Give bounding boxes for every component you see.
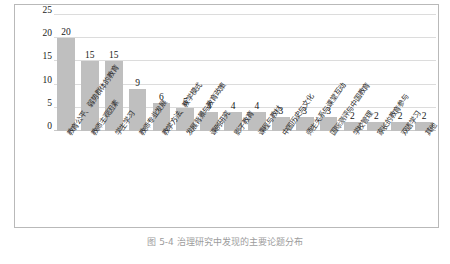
bar-value-label: 15 [78,50,102,60]
figure-container: 2520151050 2015159654443332222 教育公平、弱势群体… [0,0,450,264]
x-axis-category-labels: 教育公平、弱势群体的教育教师主观因素学生学习教师专业发展教学方法、教学模式发展背… [0,131,450,231]
bar-slot: 20 [54,14,78,131]
bar-value-label: 15 [102,50,126,60]
y-axis-tick-labels: 2520151050 [18,10,52,130]
y-axis-tick-5: 5 [47,99,52,109]
bar-value-label: 20 [54,27,78,37]
y-axis-tick-20: 20 [43,29,53,39]
y-axis-tick-25: 25 [43,6,53,16]
y-axis-tick-10: 10 [43,76,53,86]
y-axis-tick-15: 15 [43,52,53,62]
bar-value-label: 9 [126,78,150,88]
bar [57,38,75,131]
figure-caption: 图 5-4 治理研究中发现的主要论题分布 [0,236,450,264]
